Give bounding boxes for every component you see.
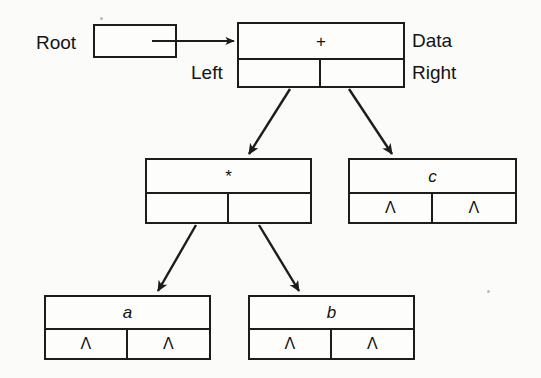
right-field-label: Right — [412, 63, 456, 82]
node-times-right-pointer[interactable] — [229, 194, 311, 222]
node-plus-data: + — [239, 24, 403, 60]
node-c-data: c — [350, 160, 515, 194]
node-c-right-pointer[interactable]: Λ — [433, 194, 516, 222]
node-c-pointers: Λ Λ — [350, 194, 515, 222]
node-c[interactable]: c Λ Λ — [348, 158, 517, 224]
node-plus-left-pointer[interactable] — [239, 60, 321, 86]
node-b-left-pointer[interactable]: Λ — [250, 330, 332, 358]
edge-plus-right — [349, 89, 392, 154]
node-a-data: a — [46, 297, 209, 330]
scan-speck — [487, 290, 490, 293]
node-b-data: b — [250, 297, 413, 330]
node-times[interactable]: * — [145, 158, 312, 224]
node-a-left-pointer[interactable]: Λ — [46, 330, 128, 358]
node-plus-right-pointer[interactable] — [321, 60, 403, 86]
node-b-pointers: Λ Λ — [250, 330, 413, 358]
node-b-right-pointer[interactable]: Λ — [332, 330, 414, 358]
node-a-right-pointer[interactable]: Λ — [128, 330, 210, 358]
node-b[interactable]: b Λ Λ — [248, 295, 415, 360]
root-pointer-box[interactable] — [93, 24, 177, 58]
edge-times-right — [259, 225, 299, 291]
node-a-pointers: Λ Λ — [46, 330, 209, 358]
scan-speck — [100, 17, 103, 20]
root-label: Root — [36, 33, 76, 52]
node-a[interactable]: a Λ Λ — [44, 295, 211, 360]
node-plus[interactable]: + — [237, 22, 405, 88]
diagram-canvas: Root + Data Left Right * c Λ Λ a Λ Λ — [0, 0, 541, 378]
node-plus-pointers — [239, 60, 403, 86]
node-times-pointers — [147, 194, 310, 222]
data-field-label: Data — [412, 31, 452, 50]
node-c-left-pointer[interactable]: Λ — [350, 194, 433, 222]
edge-times-left — [158, 225, 196, 291]
node-times-data: * — [147, 160, 310, 194]
left-field-label: Left — [191, 63, 223, 82]
node-times-left-pointer[interactable] — [147, 194, 229, 222]
edge-plus-left — [249, 89, 290, 154]
